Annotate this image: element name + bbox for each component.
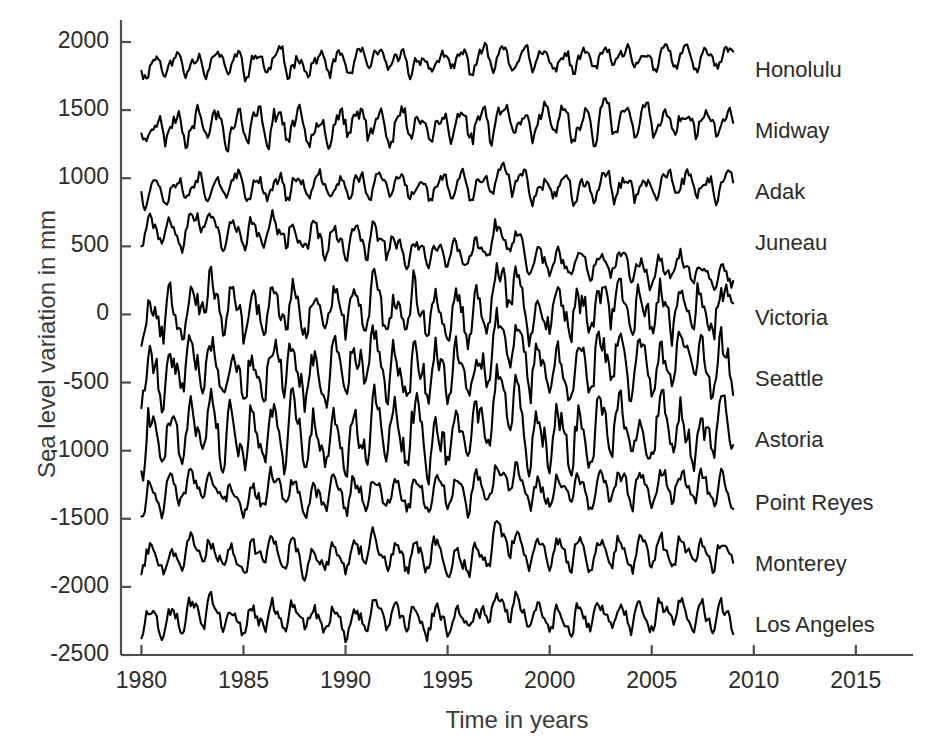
y-tick-label: -1500 [5,504,109,531]
y-tick-label: -2000 [5,572,109,599]
y-tick-label: 500 [5,231,109,258]
series-label-honolulu: Honolulu [755,57,842,83]
series-label-adak: Adak [755,179,805,205]
y-axis-title: Sea level variation in mm [33,134,61,554]
series-label-monterey: Monterey [755,551,847,577]
series-label-los-angeles: Los Angeles [755,612,875,638]
y-tick-label: -1000 [5,436,109,463]
x-axis-title: Time in years [121,706,913,734]
sea-level-chart: Sea level variation in mm Time in years … [0,0,934,753]
y-tick-label: -500 [5,368,109,395]
x-tick-label: 1995 [393,667,503,694]
x-tick-label: 1985 [188,667,298,694]
series-label-juneau: Juneau [755,230,827,256]
x-tick-label: 2010 [699,667,809,694]
series-label-midway: Midway [755,118,830,144]
x-tick-label: 2005 [597,667,707,694]
x-tick-label: 2015 [801,667,911,694]
y-tick-label: 1000 [5,163,109,190]
series-label-astoria: Astoria [755,427,823,453]
y-tick-label: 0 [5,299,109,326]
x-tick-label: 1990 [291,667,401,694]
y-tick-label: 1500 [5,95,109,122]
x-tick-label: 2000 [495,667,605,694]
x-tick-label: 1980 [86,667,196,694]
series-label-victoria: Victoria [755,305,828,331]
series-label-seattle: Seattle [755,366,824,392]
y-tick-label: -2500 [5,640,109,667]
y-tick-label: 2000 [5,27,109,54]
series-label-point-reyes: Point Reyes [755,490,874,516]
